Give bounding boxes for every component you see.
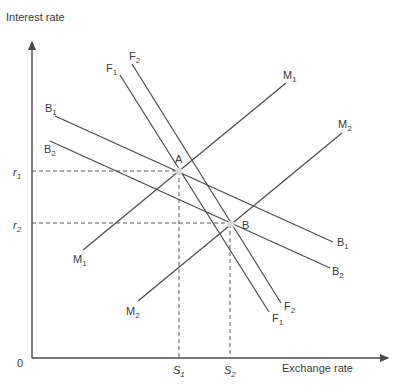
bp-mm-ff-diagram: Interest rate Exchange rate 0 r1 r2 S1 S…: [0, 0, 405, 388]
s1-label: S1: [173, 364, 185, 379]
point-b: [228, 221, 235, 228]
curve-m2: [138, 133, 342, 301]
f2-end-label: F2: [284, 300, 296, 315]
curve-f1: [120, 75, 269, 312]
b2-start-label: B2: [44, 143, 56, 158]
s2-label: S2: [224, 364, 236, 379]
point-a: [176, 168, 183, 175]
m2-end-label: M2: [338, 118, 352, 133]
point-b-label: B: [242, 219, 249, 231]
m1-end-label: M1: [283, 69, 297, 84]
b1-start-label: B1: [45, 102, 57, 117]
curve-f2: [132, 64, 281, 303]
curve-b2: [50, 141, 330, 268]
y-axis-label: Interest rate: [6, 11, 65, 23]
m1-start-label: M1: [73, 253, 87, 268]
r2-label: r2: [13, 219, 22, 234]
x-axis-label: Exchange rate: [282, 362, 353, 374]
m2-start-label: M2: [126, 305, 140, 320]
diagram-canvas: Interest rate Exchange rate 0 r1 r2 S1 S…: [0, 0, 405, 388]
b2-end-label: B2: [332, 265, 344, 280]
b1-end-label: B1: [337, 236, 349, 251]
f1-start-label: F1: [106, 62, 118, 77]
f1-end-label: F1: [272, 312, 284, 327]
f2-start-label: F2: [129, 50, 141, 65]
r1-label: r1: [13, 166, 21, 181]
point-a-label: A: [175, 153, 183, 165]
origin-label: 0: [17, 357, 23, 369]
curve-m1: [83, 83, 286, 250]
